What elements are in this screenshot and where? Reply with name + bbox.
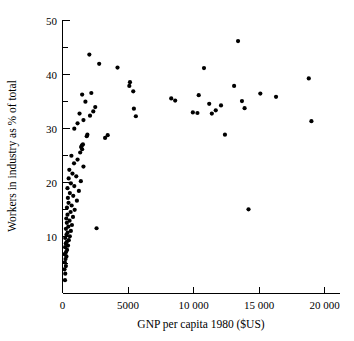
data-point bbox=[71, 194, 75, 198]
data-point bbox=[80, 93, 84, 97]
data-point bbox=[64, 216, 68, 220]
data-point bbox=[307, 76, 311, 80]
data-point bbox=[72, 184, 76, 188]
data-point bbox=[75, 199, 79, 203]
data-point bbox=[81, 142, 85, 146]
data-point bbox=[67, 238, 71, 242]
data-point bbox=[242, 106, 246, 110]
data-point bbox=[69, 229, 73, 233]
data-point bbox=[88, 114, 92, 118]
data-point bbox=[66, 201, 70, 205]
data-point bbox=[65, 186, 69, 190]
data-point bbox=[85, 133, 89, 137]
scatter-plot-figure: 1020304050 0500010 00015 00020 000 GNP p… bbox=[0, 0, 354, 341]
data-point bbox=[77, 111, 81, 115]
x-tick-label: 10 000 bbox=[178, 299, 209, 311]
data-point bbox=[173, 98, 177, 102]
data-point bbox=[89, 91, 93, 95]
data-point bbox=[63, 278, 67, 282]
data-point bbox=[97, 62, 101, 66]
data-point bbox=[169, 96, 173, 100]
data-point bbox=[93, 105, 97, 109]
data-point bbox=[73, 208, 77, 212]
chart-canvas: 1020304050 0500010 00015 00020 000 GNP p… bbox=[0, 0, 354, 341]
data-point bbox=[68, 191, 72, 195]
data-point bbox=[67, 168, 71, 172]
data-point bbox=[64, 264, 68, 268]
data-point bbox=[210, 111, 214, 115]
data-point bbox=[214, 108, 218, 112]
data-point bbox=[115, 65, 119, 69]
data-point bbox=[71, 215, 75, 219]
data-point bbox=[91, 109, 95, 113]
data-point bbox=[81, 164, 85, 168]
y-tick-label: 50 bbox=[46, 15, 58, 27]
data-point bbox=[127, 84, 131, 88]
data-point bbox=[191, 110, 195, 114]
y-tick-label: 20 bbox=[46, 177, 58, 189]
x-tick-label: 5000 bbox=[117, 299, 140, 311]
data-point bbox=[246, 207, 250, 211]
data-point bbox=[70, 172, 74, 176]
data-point bbox=[202, 66, 206, 70]
data-point bbox=[72, 161, 76, 165]
x-tick-label: 0 bbox=[60, 299, 66, 311]
data-point bbox=[70, 223, 74, 227]
data-point bbox=[77, 189, 81, 193]
data-point bbox=[134, 114, 138, 118]
data-point bbox=[83, 100, 87, 104]
data-point bbox=[274, 95, 278, 99]
x-tick-label: 20 000 bbox=[309, 299, 340, 311]
y-axis-title: Workers in industry as % of total bbox=[6, 80, 19, 232]
data-point bbox=[240, 99, 244, 103]
data-point bbox=[81, 118, 85, 122]
data-point bbox=[236, 39, 240, 43]
data-points bbox=[62, 39, 313, 282]
y-tick-label: 10 bbox=[46, 231, 58, 243]
data-point bbox=[232, 84, 236, 88]
data-point bbox=[67, 176, 71, 180]
data-point bbox=[79, 179, 83, 183]
x-axis-ticks: 0500010 00015 00020 000 bbox=[60, 287, 340, 312]
x-tick-label: 15 000 bbox=[244, 299, 275, 311]
data-point bbox=[258, 91, 262, 95]
x-axis-title: GNP per capita 1980 ($US) bbox=[137, 318, 264, 331]
data-point bbox=[197, 93, 201, 97]
data-point bbox=[87, 52, 91, 56]
y-tick-label: 40 bbox=[46, 69, 58, 81]
data-point bbox=[131, 89, 135, 93]
data-point bbox=[128, 80, 132, 84]
data-point bbox=[66, 196, 70, 200]
data-point bbox=[309, 119, 313, 123]
data-point bbox=[223, 133, 227, 137]
data-point bbox=[65, 206, 69, 210]
y-tick-label: 30 bbox=[46, 123, 58, 135]
data-point bbox=[132, 107, 136, 111]
data-point bbox=[63, 272, 67, 276]
data-point bbox=[106, 133, 110, 137]
data-point bbox=[75, 121, 79, 125]
data-point bbox=[75, 157, 79, 161]
data-point bbox=[69, 210, 73, 214]
data-point bbox=[195, 111, 199, 115]
data-point bbox=[219, 103, 223, 107]
data-point bbox=[69, 181, 73, 185]
axes bbox=[63, 20, 341, 294]
data-point bbox=[69, 154, 73, 158]
data-point bbox=[94, 226, 98, 230]
data-point bbox=[207, 102, 211, 106]
data-point bbox=[72, 127, 76, 131]
data-point bbox=[74, 174, 78, 178]
